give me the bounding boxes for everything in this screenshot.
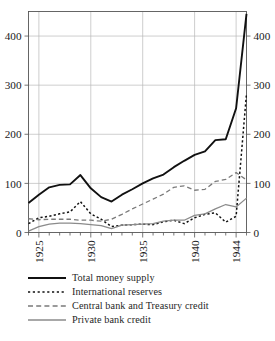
- y-axis-label-left: 400: [5, 30, 22, 42]
- legend-swatch-total-money-supply: [27, 272, 67, 284]
- y-axis-label-right: 0: [254, 227, 260, 239]
- legend-item: Private bank credit: [27, 313, 273, 327]
- y-axis-label-left: 100: [5, 178, 22, 190]
- chart-legend: Total money supply International reserve…: [27, 271, 273, 327]
- x-axis-label: 1935: [137, 240, 149, 263]
- series-line-international-reserves: [29, 94, 247, 227]
- x-axis-label: 1925: [33, 240, 45, 263]
- y-axis-label-right: 300: [254, 79, 271, 91]
- x-axis-label: 1930: [85, 240, 97, 263]
- legend-label-international-reserves: International reserves: [67, 286, 162, 298]
- x-axis-label: 1940: [189, 240, 201, 263]
- y-axis-label-right: 200: [254, 128, 271, 140]
- legend-label-private-bank-credit: Private bank credit: [67, 314, 151, 326]
- legend-label-total-money-supply: Total money supply: [67, 272, 155, 284]
- series-line-central-bank-and-treasury-credit: [29, 173, 247, 222]
- plot-frame: [29, 12, 247, 233]
- chart-figure: 0010010020020030030040040019251930193519…: [0, 0, 275, 341]
- y-axis-label-left: 200: [5, 128, 22, 140]
- x-axis-label: 1944: [230, 240, 242, 263]
- legend-swatch-central-bank-and-treasury-credit: [27, 300, 67, 312]
- y-axis-label-left: 0: [16, 227, 22, 239]
- legend-item: International reserves: [27, 285, 273, 299]
- legend-label-central-bank-and-treasury-credit: Central bank and Treasury credit: [67, 300, 209, 312]
- y-axis-label-right: 100: [254, 178, 271, 190]
- legend-swatch-private-bank-credit: [27, 314, 67, 326]
- legend-swatch-international-reserves: [27, 286, 67, 298]
- series-line-total-money-supply: [29, 14, 247, 203]
- series-line-private-bank-credit: [29, 198, 247, 231]
- legend-item: Total money supply: [27, 271, 273, 285]
- y-axis-label-right: 400: [254, 30, 271, 42]
- y-axis-label-left: 300: [5, 79, 22, 91]
- legend-item: Central bank and Treasury credit: [27, 299, 273, 313]
